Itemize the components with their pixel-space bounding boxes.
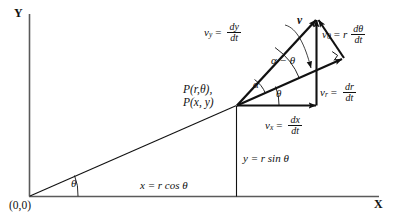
x-axis-label: X bbox=[374, 198, 383, 210]
origin-label: (0,0) bbox=[9, 200, 31, 212]
point-cartesian-label: P(x, y) bbox=[183, 97, 214, 109]
vy-equals: = bbox=[215, 27, 221, 38]
vy-subscript: y bbox=[209, 31, 212, 39]
vy-fraction: dy dt bbox=[227, 22, 240, 43]
vx-fraction: dx dt bbox=[288, 115, 301, 136]
vtheta-numerator: dθ bbox=[351, 24, 365, 34]
vtheta-equals: = bbox=[334, 29, 340, 40]
vtheta-denominator: dt bbox=[352, 35, 364, 45]
vtheta-equation-label: vθ = r dθ dt bbox=[322, 24, 365, 45]
vtheta-fraction: dθ dt bbox=[351, 24, 365, 45]
vr-fraction: dr dt bbox=[343, 82, 356, 103]
vr-equation-label: vr = dr dt bbox=[320, 82, 356, 103]
vy-equation-label: vy = dy dt bbox=[204, 22, 241, 43]
vr-denominator: dt bbox=[344, 93, 356, 103]
vy-numerator: dy bbox=[227, 22, 240, 32]
right-angle-icon bbox=[332, 52, 337, 61]
alpha-label: α bbox=[253, 79, 259, 90]
vx-subscript: x bbox=[270, 124, 273, 132]
vr-equals: = bbox=[331, 87, 337, 98]
vr-subscript: r bbox=[325, 91, 328, 99]
vx-equals: = bbox=[276, 120, 282, 131]
y-axis-label: Y bbox=[14, 7, 23, 19]
vx-numerator: dx bbox=[288, 115, 301, 125]
vx-denominator: dt bbox=[289, 126, 301, 136]
x-projection-label: x = r cos θ bbox=[140, 180, 188, 191]
theta-point-label: θ bbox=[276, 88, 281, 99]
polar-velocity-diagram: Y X (0,0) θ θ α α − θ P(r,θ), P(x, y) x … bbox=[0, 0, 396, 221]
theta-origin-label: θ bbox=[71, 178, 76, 189]
vtheta-subscript: θ bbox=[327, 33, 331, 41]
vr-numerator: dr bbox=[343, 82, 356, 92]
vector-v-label: v bbox=[297, 15, 302, 27]
point-polar-label: P(r,θ), bbox=[183, 84, 212, 96]
radius-line bbox=[30, 106, 237, 197]
vy-denominator: dt bbox=[228, 33, 240, 43]
y-projection-label: y = r sin θ bbox=[243, 153, 289, 164]
alpha-minus-theta-label: α − θ bbox=[271, 55, 295, 66]
vx-equation-label: vx = dx dt bbox=[265, 115, 302, 136]
vtheta-coefficient: r bbox=[343, 29, 347, 40]
